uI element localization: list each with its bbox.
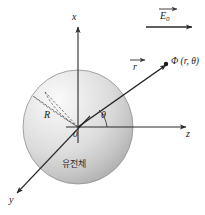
material-label: 유전체 xyxy=(62,160,86,169)
origin-label: 0 xyxy=(73,130,78,139)
position-vector-label: r xyxy=(133,62,137,72)
axis-y-label: y xyxy=(9,195,13,205)
field-point-dot xyxy=(164,62,168,66)
radius-label: R xyxy=(44,110,50,120)
external-field-subscript: 0 xyxy=(166,15,170,23)
axis-z-label: z xyxy=(186,129,190,139)
axis-x-label: x xyxy=(72,12,76,22)
angle-theta-label: θ xyxy=(101,110,106,120)
diagram-canvas xyxy=(0,0,205,215)
external-field-label: E0 xyxy=(160,11,170,21)
field-point-label: Φ (r, θ) xyxy=(171,57,199,67)
physics-diagram: x z y 0 E0 r R θ Φ (r, θ) 유전체 xyxy=(0,0,205,215)
